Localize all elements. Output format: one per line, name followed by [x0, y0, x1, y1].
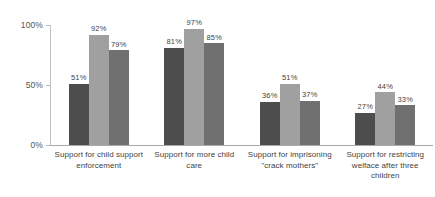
bar-group: 36%51%37% — [242, 25, 338, 145]
y-axis-tick-label: 50% — [26, 81, 46, 90]
bar[interactable] — [164, 48, 184, 145]
bar-column[interactable]: 85% — [204, 25, 224, 145]
bar-value-label: 81% — [167, 38, 182, 46]
x-axis-category-label: Support for restricting welface after th… — [340, 150, 432, 182]
bar[interactable] — [69, 84, 89, 145]
bar-group: 27%44%33% — [338, 25, 434, 145]
bar-column[interactable]: 92% — [89, 25, 109, 145]
bar-value-label: 36% — [262, 92, 277, 100]
x-axis-line — [50, 145, 433, 146]
bar-value-label: 51% — [282, 74, 297, 82]
x-axis-category-label: Support for more child care — [149, 150, 241, 171]
bar-column[interactable]: 44% — [375, 25, 395, 145]
bar[interactable] — [89, 35, 109, 145]
bar-column[interactable]: 36% — [260, 25, 280, 145]
bar[interactable] — [260, 102, 280, 145]
x-axis-category-label: Support for imprisoning "crack mothers" — [244, 150, 336, 171]
bar[interactable] — [184, 29, 204, 145]
bar-column[interactable]: 37% — [300, 25, 320, 145]
x-axis-category-labels: Support for child support enforcementSup… — [51, 150, 433, 197]
bar-column[interactable]: 51% — [280, 25, 300, 145]
bar-value-label: 27% — [358, 103, 373, 111]
bar-value-label: 92% — [91, 25, 106, 33]
bar-column[interactable]: 51% — [69, 25, 89, 145]
y-axis-tick-label: 0% — [31, 141, 47, 150]
bar-group: 81%97%85% — [147, 25, 243, 145]
bar-column[interactable]: 27% — [355, 25, 375, 145]
y-axis-tick-label: 100% — [21, 21, 46, 30]
bar[interactable] — [300, 101, 320, 145]
bar-value-label: 33% — [398, 96, 413, 104]
bar[interactable] — [280, 84, 300, 145]
bar-column[interactable]: 97% — [184, 25, 204, 145]
bar-column[interactable]: 81% — [164, 25, 184, 145]
bar-column[interactable]: 33% — [395, 25, 415, 145]
bar-chart: 0%50%100% 51%92%79%81%97%85%36%51%37%27%… — [0, 0, 435, 197]
bar[interactable] — [109, 50, 129, 145]
bar-value-label: 85% — [207, 34, 222, 42]
bar[interactable] — [375, 92, 395, 145]
bar[interactable] — [204, 43, 224, 145]
y-axis: 0%50%100% — [0, 18, 50, 150]
bar-value-label: 44% — [378, 83, 393, 91]
bar-value-label: 37% — [302, 91, 317, 99]
bar-value-label: 51% — [71, 74, 86, 82]
bar[interactable] — [355, 113, 375, 145]
bar-value-label: 97% — [187, 19, 202, 27]
bar-column[interactable]: 79% — [109, 25, 129, 145]
bar-group: 51%92%79% — [51, 25, 147, 145]
bar[interactable] — [395, 105, 415, 145]
bar-value-label: 79% — [111, 41, 126, 49]
plot-area: 51%92%79%81%97%85%36%51%37%27%44%33% — [51, 25, 433, 145]
x-axis-category-label: Support for child support enforcement — [53, 150, 145, 171]
